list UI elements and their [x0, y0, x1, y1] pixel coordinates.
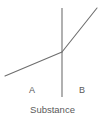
region-b-label: B	[74, 86, 90, 95]
region-a-line-segment	[5, 52, 62, 76]
line-graph-figure: A B Substance	[0, 0, 105, 119]
region-b-line-segment	[62, 8, 97, 52]
region-a-label: A	[24, 86, 40, 95]
x-axis-caption: Substance	[0, 104, 105, 115]
plot-area	[0, 0, 105, 119]
